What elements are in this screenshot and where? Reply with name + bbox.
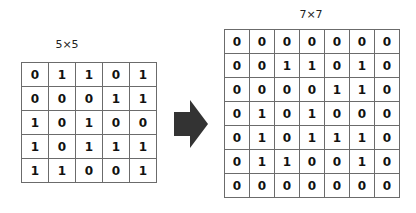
- grid-cell: 1: [22, 135, 49, 159]
- grid-cell: 1: [300, 126, 325, 150]
- grid-row: 0000000: [225, 30, 400, 54]
- grid-cell: 0: [49, 111, 76, 135]
- grid-row: 0101110: [225, 126, 400, 150]
- grid-cell: 0: [225, 78, 250, 102]
- grid-cell: 0: [225, 54, 250, 78]
- grid-cell: 1: [350, 126, 375, 150]
- grid-cell: 0: [103, 111, 130, 135]
- grid-cell: 0: [350, 102, 375, 126]
- grid-cell: 0: [225, 150, 250, 174]
- grid-row: 0000110: [225, 78, 400, 102]
- grid-cell: 0: [300, 174, 325, 198]
- grid-row: 00011: [22, 87, 157, 111]
- grid-cell: 0: [76, 159, 103, 183]
- grid-cell: 0: [325, 150, 350, 174]
- grid-cell: 0: [250, 78, 275, 102]
- grid-row: 01101: [22, 63, 157, 87]
- grid-cell: 1: [22, 159, 49, 183]
- grid-cell: 1: [350, 150, 375, 174]
- grid-cell: 0: [325, 30, 350, 54]
- grid-cell: 1: [275, 150, 300, 174]
- grid-cell: 1: [250, 126, 275, 150]
- grid-cell: 0: [22, 87, 49, 111]
- grid-cell: 0: [49, 135, 76, 159]
- grid-cell: 1: [275, 54, 300, 78]
- grid-cell: 0: [325, 102, 350, 126]
- grid-cell: 0: [130, 111, 157, 135]
- grid-cell: 1: [103, 87, 130, 111]
- grid-cell: 0: [350, 30, 375, 54]
- grid-cell: 0: [325, 54, 350, 78]
- grid-cell: 0: [225, 102, 250, 126]
- right-arrow-icon: [174, 100, 210, 150]
- grid-cell: 0: [103, 159, 130, 183]
- grid-cell: 0: [375, 102, 400, 126]
- grid-cell: 1: [350, 54, 375, 78]
- grid-row: 10111: [22, 135, 157, 159]
- grid-cell: 1: [76, 135, 103, 159]
- grid-5x5: 0110100011101001011111001: [21, 62, 157, 183]
- grid-cell: 0: [275, 30, 300, 54]
- grid-cell: 0: [375, 30, 400, 54]
- grid-cell: 0: [375, 150, 400, 174]
- grid-cell: 0: [275, 78, 300, 102]
- grid-cell: 0: [250, 30, 275, 54]
- grid-cell: 1: [325, 78, 350, 102]
- grid-cell: 0: [300, 78, 325, 102]
- grid-cell: 0: [300, 150, 325, 174]
- grid-7x7: 0000000001101000001100101000010111001100…: [224, 29, 400, 198]
- grid-cell: 0: [225, 126, 250, 150]
- grid-cell: 1: [250, 102, 275, 126]
- grid-cell: 0: [22, 63, 49, 87]
- grid-cell: 1: [76, 63, 103, 87]
- grid-row: 0101000: [225, 102, 400, 126]
- grid-cell: 0: [250, 174, 275, 198]
- grid-cell: 0: [275, 126, 300, 150]
- grid-cell: 1: [130, 135, 157, 159]
- grid-cell: 1: [130, 159, 157, 183]
- right-grid-label: 7×7: [291, 8, 331, 21]
- grid-cell: 0: [250, 54, 275, 78]
- grid-row: 0011010: [225, 54, 400, 78]
- grid-cell: 1: [22, 111, 49, 135]
- grid-cell: 0: [225, 30, 250, 54]
- grid-cell: 0: [275, 102, 300, 126]
- grid-cell: 0: [49, 87, 76, 111]
- grid-row: 0000000: [225, 174, 400, 198]
- left-grid-label: 5×5: [47, 38, 87, 51]
- grid-row: 10100: [22, 111, 157, 135]
- grid-cell: 0: [375, 54, 400, 78]
- grid-cell: 0: [76, 87, 103, 111]
- grid-cell: 0: [375, 126, 400, 150]
- grid-row: 11001: [22, 159, 157, 183]
- grid-cell: 0: [225, 174, 250, 198]
- grid-cell: 1: [49, 159, 76, 183]
- grid-cell: 1: [350, 78, 375, 102]
- grid-cell: 1: [300, 54, 325, 78]
- grid-cell: 1: [103, 135, 130, 159]
- grid-cell: 1: [130, 87, 157, 111]
- grid-cell: 0: [350, 174, 375, 198]
- grid-cell: 0: [103, 63, 130, 87]
- grid-cell: 1: [76, 111, 103, 135]
- grid-row: 0110010: [225, 150, 400, 174]
- grid-cell: 1: [300, 102, 325, 126]
- grid-cell: 1: [325, 126, 350, 150]
- grid-cell: 1: [49, 63, 76, 87]
- grid-cell: 0: [375, 78, 400, 102]
- grid-cell: 0: [325, 174, 350, 198]
- grid-cell: 1: [130, 63, 157, 87]
- grid-cell: 0: [275, 174, 300, 198]
- grid-cell: 0: [300, 30, 325, 54]
- grid-cell: 0: [375, 174, 400, 198]
- grid-cell: 1: [250, 150, 275, 174]
